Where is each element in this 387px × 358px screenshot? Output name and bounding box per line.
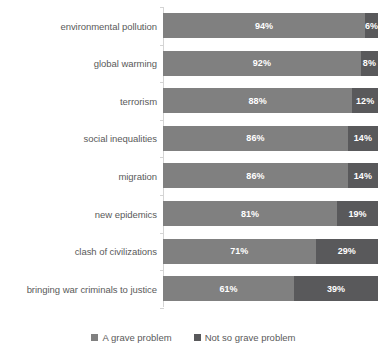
bar-segment-grave: 81% [163, 201, 337, 226]
stacked-bar: 86%14% [163, 163, 378, 188]
category-label: clash of civilizations [75, 246, 157, 257]
bar-value-label: 61% [219, 284, 237, 294]
bar-segment-not-so-grave: 14% [348, 126, 378, 151]
bar-value-label: 88% [248, 96, 266, 106]
bar-segment-grave: 94% [163, 13, 365, 38]
axis-tick [160, 7, 164, 8]
axis-tick [160, 233, 164, 234]
bar-row: global warming92%8% [163, 51, 378, 76]
axis-tick [160, 82, 164, 83]
bar-value-label: 86% [246, 171, 264, 181]
bar-segment-grave: 88% [163, 88, 352, 113]
axis-tick [160, 195, 164, 196]
axis-tick [160, 120, 164, 121]
bar-value-label: 92% [253, 58, 271, 68]
stacked-bar: 71%29% [163, 239, 378, 264]
bar-segment-grave: 61% [163, 276, 294, 301]
bar-row: new epidemics81%19% [163, 201, 378, 226]
bar-value-label: 71% [230, 246, 248, 256]
bar-value-label: 39% [327, 284, 345, 294]
bar-value-label: 8% [363, 58, 376, 68]
bar-value-label: 14% [354, 133, 372, 143]
legend-label: Not so grave problem [205, 332, 296, 343]
bar-value-label: 81% [241, 209, 259, 219]
category-label: global warming [94, 58, 157, 69]
bar-segment-not-so-grave: 19% [337, 201, 378, 226]
axis-tick [160, 157, 164, 158]
bar-value-label: 29% [338, 246, 356, 256]
bar-value-label: 19% [348, 209, 366, 219]
chart-legend: A grave problemNot so grave problem [0, 332, 387, 343]
axis-tick [160, 308, 164, 309]
bar-segment-not-so-grave: 39% [294, 276, 378, 301]
legend-item[interactable]: A grave problem [91, 332, 171, 343]
category-label: new epidemics [95, 208, 157, 219]
bar-segment-not-so-grave: 14% [348, 163, 378, 188]
square-marker-icon [91, 334, 98, 341]
stacked-bar: 86%14% [163, 126, 378, 151]
stacked-bar: 92%8% [163, 51, 378, 76]
category-label: terrorism [120, 95, 157, 106]
bar-row: clash of civilizations71%29% [163, 239, 378, 264]
stacked-bar-chart: environmental pollution94%6%global warmi… [0, 0, 387, 358]
category-label: environmental pollution [60, 20, 157, 31]
bar-segment-not-so-grave: 12% [352, 88, 378, 113]
axis-tick [160, 45, 164, 46]
category-label: bringing war criminals to justice [27, 283, 157, 294]
stacked-bar: 81%19% [163, 201, 378, 226]
legend-label: A grave problem [102, 332, 171, 343]
category-label: migration [118, 170, 157, 181]
bar-segment-not-so-grave: 6% [365, 13, 378, 38]
plot-area: environmental pollution94%6%global warmi… [163, 7, 378, 307]
bar-row: bringing war criminals to justice61%39% [163, 276, 378, 301]
bar-segment-grave: 92% [163, 51, 361, 76]
bar-segment-not-so-grave: 29% [316, 239, 378, 264]
bar-segment-grave: 86% [163, 163, 348, 188]
bar-row: social inequalities86%14% [163, 126, 378, 151]
bar-segment-not-so-grave: 8% [361, 51, 378, 76]
bar-segment-grave: 71% [163, 239, 316, 264]
stacked-bar: 94%6% [163, 13, 378, 38]
square-marker-icon [194, 334, 201, 341]
axis-tick [160, 270, 164, 271]
bar-value-label: 12% [356, 96, 374, 106]
bar-value-label: 86% [246, 133, 264, 143]
bar-value-label: 94% [255, 21, 273, 31]
stacked-bar: 61%39% [163, 276, 378, 301]
bar-segment-grave: 86% [163, 126, 348, 151]
bar-row: terrorism88%12% [163, 88, 378, 113]
category-label: social inequalities [83, 133, 157, 144]
bar-value-label: 14% [354, 171, 372, 181]
stacked-bar: 88%12% [163, 88, 378, 113]
bar-value-label: 6% [365, 21, 378, 31]
bar-row: migration86%14% [163, 163, 378, 188]
bar-row: environmental pollution94%6% [163, 13, 378, 38]
legend-item[interactable]: Not so grave problem [194, 332, 296, 343]
